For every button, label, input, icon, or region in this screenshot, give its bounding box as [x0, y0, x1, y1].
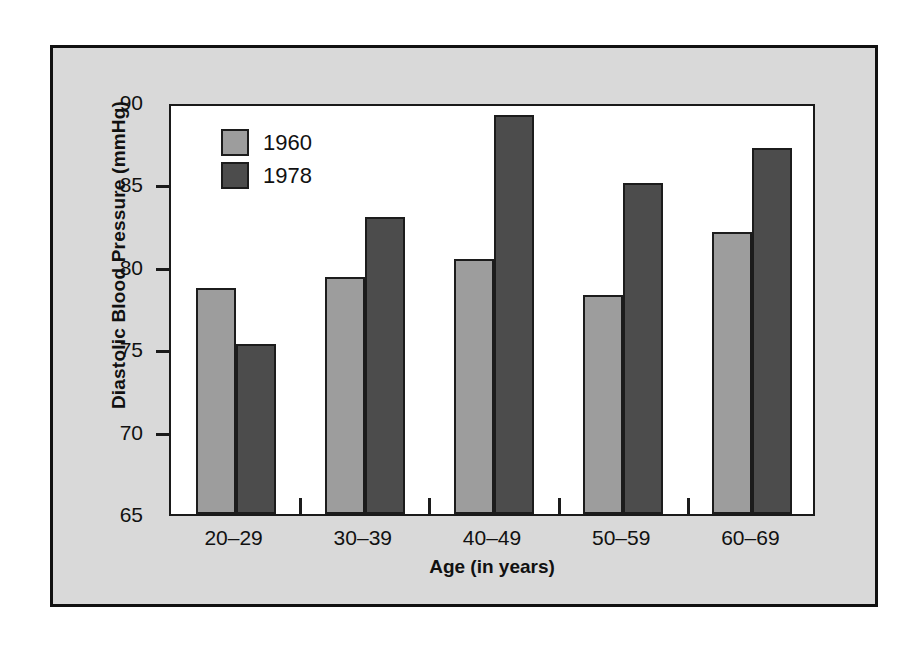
- x-tick-label-30–39: 30–39: [288, 526, 438, 550]
- y-tick-mark: [156, 350, 169, 353]
- bar-group: [454, 106, 534, 514]
- y-tick-mark: [156, 185, 169, 188]
- x-tick-label-20–29: 20–29: [159, 526, 309, 550]
- figure-frame: Diastolic Blood Pressure (mmHg) 65707580…: [50, 45, 878, 607]
- category-separator-tick: [687, 498, 690, 514]
- y-tick-label: 80: [120, 255, 143, 281]
- bar-1960-20–29: [196, 288, 236, 514]
- bar-1960-30–39: [325, 277, 365, 514]
- bar-group: [325, 106, 405, 514]
- category-separator-tick: [558, 498, 561, 514]
- bar-1978-30–39: [365, 217, 405, 514]
- x-tick-label-50–59: 50–59: [546, 526, 696, 550]
- y-tick-label: 90: [120, 90, 143, 116]
- category-separator-tick: [428, 498, 431, 514]
- bar-1960-60–69: [712, 232, 752, 514]
- bar-1978-50–59: [623, 183, 663, 514]
- plot-area: 1960 1978: [169, 104, 815, 516]
- y-tick-label: 75: [120, 337, 143, 363]
- y-tick-label: 65: [120, 502, 143, 528]
- bar-1960-50–59: [583, 295, 623, 514]
- y-tick-label: 70: [120, 420, 143, 446]
- bar-group: [196, 106, 276, 514]
- bar-1978-40–49: [494, 115, 534, 514]
- bar-1960-40–49: [454, 259, 494, 514]
- y-tick-label: 85: [120, 172, 143, 198]
- bar-1978-20–29: [236, 344, 276, 514]
- y-tick-mark: [156, 433, 169, 436]
- category-separator-tick: [299, 498, 302, 514]
- bar-group: [712, 106, 792, 514]
- x-axis-title: Age (in years): [169, 556, 815, 578]
- bar-1978-60–69: [752, 148, 792, 514]
- x-tick-label-60–69: 60–69: [675, 526, 825, 550]
- y-tick-mark: [156, 268, 169, 271]
- bar-group: [583, 106, 663, 514]
- x-tick-label-40–49: 40–49: [417, 526, 567, 550]
